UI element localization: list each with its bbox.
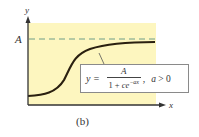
formula-separator: , (143, 73, 146, 84)
denominator-exponent: −ax (129, 79, 139, 85)
formula-fraction: A 1 + ce−ax (107, 67, 141, 89)
formula-condition: a > 0 (151, 74, 171, 84)
formula-lhs: y = (86, 73, 100, 84)
formula-numerator: A (121, 67, 127, 77)
denominator-prefix: 1 + (108, 80, 121, 90)
logistic-curve-figure: y x A y = A 1 + ce−ax , a > 0 (b) (0, 0, 199, 137)
formula-denominator: 1 + ce−ax (108, 78, 139, 89)
figure-caption: (b) (76, 115, 89, 127)
condition-rel: > 0 (156, 74, 171, 84)
asymptote-label: A (14, 33, 22, 45)
y-axis-arrow-icon (26, 16, 31, 23)
x-axis-label: x (168, 100, 173, 110)
y-axis-label: y (24, 5, 29, 15)
formula-callout: y = A 1 + ce−ax , a > 0 (80, 64, 189, 93)
x-axis-arrow-icon (159, 103, 166, 108)
